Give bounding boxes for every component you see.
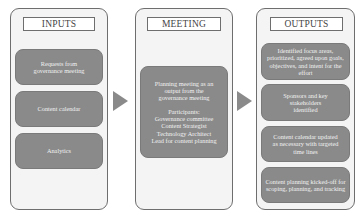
card-text: identified [293, 106, 317, 113]
card-text: objectives, and intent for the [270, 62, 342, 69]
meeting-card-planning: Planning meeting as an output from the g… [140, 66, 228, 158]
outputs-panel: OUTPUTS Identified focus areas, prioriti… [256, 8, 355, 210]
output-card-sponsors: Sponsors and key stakeholders identified [261, 84, 350, 121]
card-text: Content calendar [38, 105, 81, 112]
meeting-title: MEETING [147, 17, 221, 31]
card-text: Planning meeting as an [155, 80, 214, 87]
card-text: Analytics [47, 147, 71, 154]
card-text: governance meeting [34, 67, 85, 74]
card-text: effort [299, 69, 313, 76]
output-card-focus-areas: Identified focus areas, prioritized, agr… [261, 43, 350, 80]
card-text: prioritized, agreed upon goals, [267, 54, 344, 61]
card-text: as necessary with targeted [273, 140, 339, 147]
participant-item: Technology Architect [157, 130, 211, 137]
card-text: output from the [164, 87, 203, 94]
card-text: Identified focus areas, [278, 47, 334, 54]
participant-item: Governance committee [155, 115, 214, 122]
output-card-calendar-updated: Content calendar updated as necessary wi… [261, 126, 350, 162]
card-text: stakeholders [290, 99, 321, 106]
participants-label: Participants: [168, 108, 199, 115]
inputs-title: INPUTS [23, 17, 95, 31]
output-card-planning-kickoff: Content planning kicked-off for scoping,… [261, 167, 350, 203]
card-text: time lines [293, 148, 318, 155]
card-text: Content planning kicked-off for [265, 178, 345, 185]
input-card-governance-requests: Requests from governance meeting [15, 49, 103, 85]
participant-item: Content Strategist [161, 122, 206, 129]
input-card-analytics: Analytics [15, 133, 103, 169]
arrow-right-icon [113, 91, 128, 111]
card-text: Content calendar updated [273, 133, 337, 140]
card-text: Requests from [41, 60, 78, 67]
card-text: Sponsors and key [283, 92, 327, 99]
inputs-panel: INPUTS Requests from governance meeting … [10, 8, 108, 210]
arrow-right-icon [237, 91, 252, 111]
input-card-content-calendar: Content calendar [15, 91, 103, 127]
card-text: scoping, planning, and tracking [266, 185, 345, 192]
participant-item: Lead for content planning [151, 137, 216, 144]
outputs-title: OUTPUTS [270, 17, 343, 31]
card-text: governance meeting [159, 94, 210, 101]
meeting-panel: MEETING Planning meeting as an output fr… [135, 8, 233, 210]
